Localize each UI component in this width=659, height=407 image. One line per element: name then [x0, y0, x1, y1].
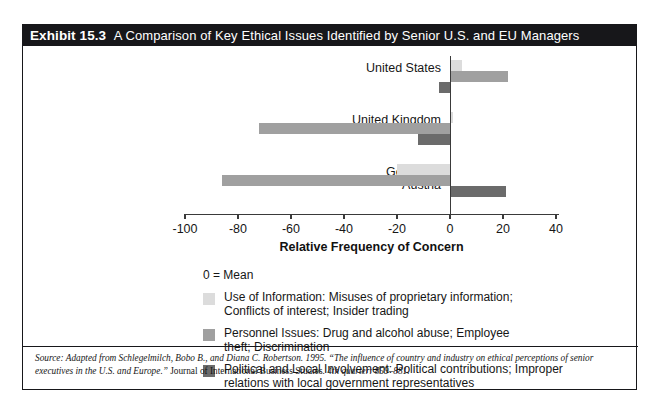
chart-bar — [450, 60, 462, 71]
legend-item: Use of Information: Misuses of proprieta… — [203, 291, 623, 318]
chart-bar — [450, 71, 508, 82]
exhibit-title-text: A Comparison of Key Ethical Issues Ident… — [114, 28, 580, 43]
x-tick — [502, 214, 503, 219]
chart-bar — [259, 123, 450, 134]
x-tick-label: 40 — [549, 222, 563, 236]
x-tick — [555, 214, 556, 219]
legend-swatch — [203, 293, 215, 305]
chart-plot-area: United StatesUnited KingdomGermany/ Aust… — [23, 46, 638, 256]
legend-label: Personnel Issues: Drug and alcohol abuse… — [224, 327, 510, 354]
source-citation: Source: Adapted from Schlegelmilch, Bobo… — [35, 352, 627, 378]
legend-label: Use of Information: Misuses of proprieta… — [224, 291, 513, 318]
x-tick — [184, 214, 185, 219]
x-tick-label: -100 — [172, 222, 197, 236]
x-tick — [396, 214, 397, 219]
x-tick — [449, 214, 450, 219]
x-tick-label: -80 — [229, 222, 247, 236]
exhibit-title-bar: Exhibit 15.3 A Comparison of Key Ethical… — [22, 24, 637, 46]
chart-bar — [439, 82, 450, 93]
chart-bar — [418, 134, 450, 145]
x-tick-label: 20 — [496, 222, 510, 236]
exhibit-title — [106, 28, 113, 43]
source-divider — [23, 346, 638, 347]
legend-item: Personnel Issues: Drug and alcohol abuse… — [203, 327, 623, 354]
source-part-3: 4th quarter: 859–881. — [327, 366, 409, 376]
x-tick-label: -40 — [335, 222, 353, 236]
mean-note: 0 = Mean — [203, 268, 623, 282]
x-tick-label: -20 — [388, 222, 406, 236]
chart-bar — [222, 175, 450, 186]
x-tick — [343, 214, 344, 219]
x-tick — [290, 214, 291, 219]
source-part-2: Journal of International Business Studie… — [170, 366, 327, 376]
exhibit-frame: United StatesUnited KingdomGermany/ Aust… — [22, 46, 637, 390]
chart-legend: 0 = Mean Use of Information: Misuses of … — [203, 268, 623, 399]
legend-swatch — [203, 329, 215, 341]
x-tick-label: -60 — [282, 222, 300, 236]
chart-bar — [397, 164, 450, 175]
exhibit-number: Exhibit 15.3 — [30, 28, 106, 43]
chart-bar — [450, 186, 506, 197]
category-label: United States — [366, 62, 441, 75]
y-axis-line — [450, 56, 451, 214]
x-tick-label: 0 — [447, 222, 454, 236]
exhibit-container: Exhibit 15.3 A Comparison of Key Ethical… — [22, 24, 637, 390]
x-tick — [237, 214, 238, 219]
x-axis-title: Relative Frequency of Concern — [184, 240, 559, 254]
